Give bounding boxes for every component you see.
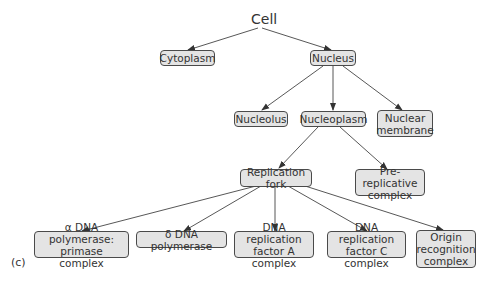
node-delta-dna-polymerase: δ DNA polymerase (136, 231, 227, 248)
node-cytoplasm: Cytoplasm (160, 50, 215, 66)
node-pre-replicative-complex: Pre-replicative complex (355, 169, 425, 196)
node-nucleus: Nucleus (310, 50, 356, 66)
node-origin-recognition-complex: Origin recognition complex (416, 230, 476, 268)
node-replication-factor-c: DNA replication factor C complex (327, 231, 406, 258)
node-nucleoplasm: Nucleoplasm (301, 111, 366, 127)
node-nuclear-membrane: Nuclear membrane (377, 110, 433, 137)
node-replication-factor-a: DNA replication factor A complex (234, 231, 314, 258)
panel-label: (c) (11, 256, 26, 269)
node-alpha-dna-polymerase: α DNA polymerase: primase complex (34, 231, 129, 258)
node-nucleolus: Nucleolus (234, 111, 288, 127)
root-node-cell: Cell (251, 11, 277, 27)
node-replication-fork: Replication fork (240, 169, 312, 187)
